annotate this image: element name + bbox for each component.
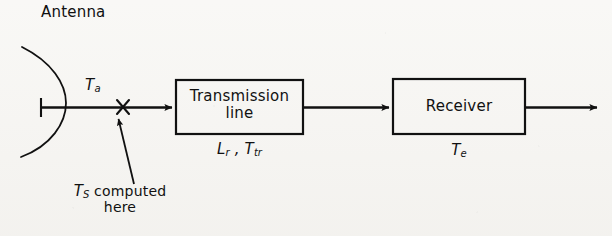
antenna-temperature-label: Ta [85, 77, 101, 94]
antenna-temperature-symbol: T [85, 76, 94, 94]
antenna-dish-arc [21, 47, 66, 157]
reference-plane-note-line1: computed [89, 183, 166, 199]
receiver-block-label: Receiver [393, 98, 525, 115]
reference-plane-note-line2: here [104, 199, 136, 215]
pointer-arrow-to-reference-plane [119, 119, 135, 184]
transmission-temperature-subscript: tr [254, 147, 262, 158]
antenna-title-label: Antenna [41, 4, 105, 21]
transmission-line-block-label: Transmissionline [176, 88, 303, 122]
diagram-canvas: Antenna Ta TS computedhere Transmissionl… [0, 0, 612, 236]
system-temperature-symbol: T [74, 182, 83, 200]
transmission-loss-symbol: L [217, 140, 226, 158]
receiver-temperature-subscript: e [461, 148, 467, 159]
transmission-temperature-symbol: T [245, 140, 254, 158]
transmission-line-label-line2: line [226, 104, 254, 122]
receiver-temperature-label: Te [393, 142, 525, 159]
antenna-temperature-subscript: a [94, 83, 100, 94]
reference-plane-note: TS computedhere [55, 183, 185, 216]
receiver-temperature-symbol: T [451, 141, 460, 159]
transmission-line-label-line1: Transmission [190, 87, 289, 105]
system-temperature-symbol-group: TS [74, 182, 90, 200]
transmission-line-parameters-label: Lr , Ttr [176, 141, 303, 158]
transmission-params-separator: , [230, 140, 245, 158]
